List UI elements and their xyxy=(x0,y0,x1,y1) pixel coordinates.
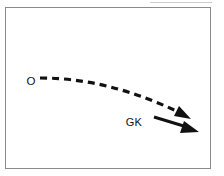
origin-point-label: O xyxy=(27,75,36,87)
physics-diagram-figure: O GK xyxy=(0,0,224,176)
gk-vector-label: GK xyxy=(126,116,143,128)
diagram-canvas: O GK xyxy=(0,0,224,176)
